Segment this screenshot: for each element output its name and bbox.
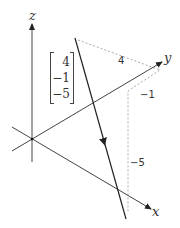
- y-axis-label: y: [163, 50, 172, 65]
- y-component-label: −1: [140, 89, 155, 100]
- diagram-canvas: z y x 4 −1 −5: [0, 0, 180, 228]
- matrix-entry-z: −5: [52, 86, 70, 102]
- x-component-label: 4: [118, 55, 124, 66]
- vector-diagram: z y x 4 −1 −5 4 −1 −5: [0, 0, 180, 228]
- matrix-entry-x: 4: [52, 54, 70, 70]
- origin-point: [31, 138, 34, 141]
- bracket-corner: [70, 103, 74, 104]
- bracket-corner: [50, 103, 54, 104]
- matrix-entry-y: −1: [52, 70, 70, 86]
- column-vector-matrix: 4 −1 −5: [50, 52, 74, 104]
- bracket-corner: [50, 52, 54, 53]
- x-axis-label: x: [152, 204, 160, 219]
- matrix-entries: 4 −1 −5: [52, 54, 70, 102]
- bracket-corner: [70, 52, 74, 53]
- z-component-label: −5: [130, 157, 145, 168]
- y-axis: [12, 62, 162, 151]
- z-axis-label: z: [28, 8, 36, 23]
